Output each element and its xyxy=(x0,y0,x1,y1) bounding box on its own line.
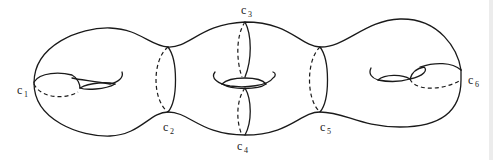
right-hole-arc xyxy=(378,75,410,80)
left-hole-upper xyxy=(34,73,80,88)
right-hole-left xyxy=(370,68,410,81)
left-hole-inner xyxy=(80,83,115,88)
curve-c2-front xyxy=(168,47,176,112)
curve-c5-front xyxy=(320,47,328,112)
label-c5: c5 xyxy=(320,120,331,136)
curve-c5-back xyxy=(310,47,321,112)
svg-text:c: c xyxy=(468,73,473,87)
svg-text:3: 3 xyxy=(248,10,252,19)
svg-text:c: c xyxy=(237,139,242,153)
curve-c4-front xyxy=(245,88,250,135)
curve-c3-back xyxy=(238,22,245,77)
curve-c4-back xyxy=(238,88,245,135)
left-hole-lower xyxy=(72,72,122,84)
svg-text:1: 1 xyxy=(24,90,28,99)
svg-text:4: 4 xyxy=(244,146,248,155)
label-c1: c1 xyxy=(17,83,28,99)
middle-hole-arc xyxy=(222,78,266,84)
curve-c3-front xyxy=(245,22,250,77)
curve-c1-back xyxy=(34,84,78,97)
left-hole-back xyxy=(80,84,115,89)
svg-text:c: c xyxy=(163,120,168,134)
svg-text:c: c xyxy=(320,120,325,134)
right-hole-loop xyxy=(410,67,425,79)
svg-text:c: c xyxy=(241,3,246,17)
right-hole-upper xyxy=(420,64,461,70)
svg-text:6: 6 xyxy=(475,80,479,89)
svg-text:5: 5 xyxy=(327,127,331,136)
label-c3: c3 xyxy=(241,3,252,19)
curve-c6-back xyxy=(410,79,461,88)
genus-three-surface-diagram: c1 c2 c3 c4 c5 c6 xyxy=(0,0,493,160)
label-c6: c6 xyxy=(468,73,479,89)
svg-text:c: c xyxy=(17,83,22,97)
svg-text:2: 2 xyxy=(170,127,174,136)
surface-outline-bottom xyxy=(34,70,461,136)
label-c2: c2 xyxy=(163,120,174,136)
label-c4: c4 xyxy=(237,139,248,155)
page-edge xyxy=(489,0,493,160)
curve-c2-back xyxy=(156,47,168,112)
